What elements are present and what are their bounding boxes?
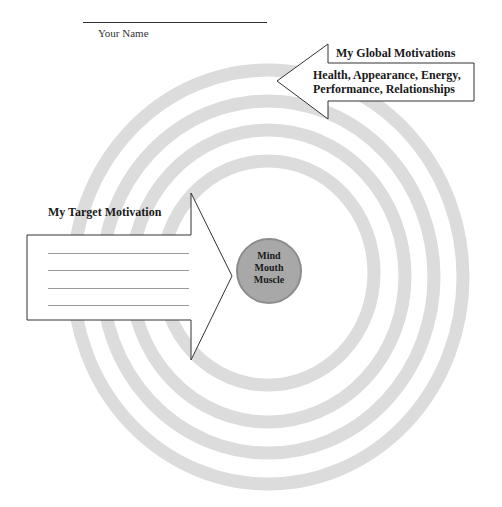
- center-label: Mind Mouth Muscle: [236, 250, 302, 286]
- global-motivations-list: Health, Appearance, Energy, Performance,…: [313, 68, 461, 96]
- name-underline[interactable]: [83, 22, 267, 23]
- global-motivations-line-1: Health, Appearance, Energy,: [313, 68, 461, 82]
- target-write-line-1[interactable]: [48, 253, 189, 254]
- target-write-line-4[interactable]: [48, 305, 189, 306]
- target-write-line-3[interactable]: [48, 288, 189, 289]
- global-motivations-line-2: Performance, Relationships: [313, 82, 461, 96]
- center-label-muscle: Muscle: [236, 274, 302, 286]
- your-name-label: Your Name: [98, 27, 149, 39]
- target-write-line-2[interactable]: [48, 270, 189, 271]
- motivation-worksheet: Your Name My Global Motivations Health, …: [0, 0, 502, 507]
- target-motivation-title: My Target Motivation: [48, 205, 161, 220]
- center-label-mouth: Mouth: [236, 262, 302, 274]
- center-label-mind: Mind: [236, 250, 302, 262]
- global-motivations-title: My Global Motivations: [336, 46, 455, 61]
